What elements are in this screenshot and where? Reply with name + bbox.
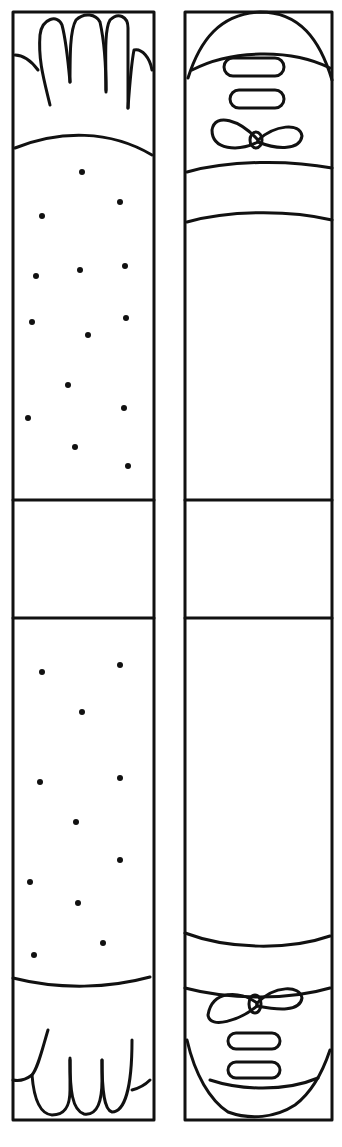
shoe-top-icon	[187, 12, 332, 172]
hand-top-icon	[15, 15, 152, 155]
arm-strip	[13, 12, 154, 1120]
sleeve-dots-upper	[25, 169, 131, 469]
leg-strip-border	[185, 12, 332, 1120]
hand-bottom-icon	[13, 977, 150, 1115]
craft-template-illustration	[0, 0, 342, 1147]
sleeve-dots-lower	[27, 662, 123, 958]
shoe-bottom-icon	[185, 988, 330, 1117]
leg-strip	[185, 12, 332, 1120]
